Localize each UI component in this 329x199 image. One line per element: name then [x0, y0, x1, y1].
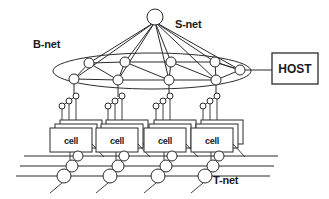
b-net-to-cell-links [74, 79, 216, 97]
b-net-node-back-1 [84, 58, 94, 68]
b-net-node-back-3 [166, 57, 176, 67]
t-net-bus-lines [16, 156, 278, 176]
b-net-node-back-2 [120, 57, 130, 67]
b-net-node-front-3 [164, 75, 174, 85]
s-net-label: S-net [175, 18, 202, 30]
t-net-switch-group-1 [50, 151, 83, 193]
b-net-node-front-4 [211, 75, 221, 85]
b-net-ring [53, 53, 251, 89]
t-net-label: T-net [213, 174, 239, 186]
b-net-nodes [69, 57, 245, 85]
b-net-label: B-net [33, 38, 61, 50]
cell-label-4: cell [205, 136, 219, 146]
cell-group-2 [96, 93, 150, 160]
b-net-node-front-2 [113, 75, 123, 85]
cell-group-3 [144, 93, 198, 160]
host-label: HOST [278, 62, 312, 76]
b-net-node-back-4 [210, 57, 220, 67]
cell-label-1: cell [64, 136, 78, 146]
network-architecture-diagram: S-net B-net T-net HOST cell cell cell ce… [0, 0, 329, 199]
s-net-apex-node [147, 9, 163, 25]
t-net-switch-group-3 [144, 151, 177, 193]
b-net-node-front-1 [69, 74, 79, 84]
diagram-canvas: S-net B-net T-net HOST cell cell cell ce… [0, 0, 329, 199]
t-net-switch-group-4 [191, 151, 224, 193]
cell-group-4 [191, 93, 245, 160]
t-net-switch-group-2 [96, 151, 129, 193]
cell-label-2: cell [110, 136, 124, 146]
cell-label-3: cell [158, 136, 172, 146]
b-net-node-host-gateway [235, 65, 245, 75]
